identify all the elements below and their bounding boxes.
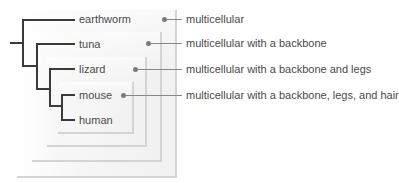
node-2-vertical xyxy=(36,43,38,90)
branch-tuna xyxy=(36,43,75,45)
branch-human xyxy=(61,119,75,121)
trait-label-legs: multicellular with a backbone and legs xyxy=(186,63,371,75)
node-3-vertical xyxy=(49,68,51,107)
taxon-human: human xyxy=(79,114,113,126)
node-4-vertical xyxy=(61,94,63,121)
leader-legs xyxy=(137,69,182,70)
root-stub xyxy=(10,42,22,44)
taxon-mouse: mouse xyxy=(79,89,112,101)
taxon-lizard: lizard xyxy=(79,63,105,75)
node-1-vertical xyxy=(22,19,24,67)
leader-hair xyxy=(125,95,182,96)
trait-label-multicellular: multicellular xyxy=(186,13,244,25)
trait-label-hair: multicellular with a backbone, legs, and… xyxy=(186,89,399,101)
branch-lizard xyxy=(49,68,75,70)
node-1-to-2 xyxy=(22,65,37,67)
branch-earthworm xyxy=(22,19,75,21)
leader-backbone xyxy=(150,43,182,44)
node-2-to-3 xyxy=(36,88,50,90)
taxon-tuna: tuna xyxy=(79,38,100,50)
trait-label-backbone: multicellular with a backbone xyxy=(186,37,327,49)
leader-multicellular xyxy=(166,19,182,20)
taxon-earthworm: earthworm xyxy=(79,13,131,25)
branch-mouse xyxy=(61,94,75,96)
